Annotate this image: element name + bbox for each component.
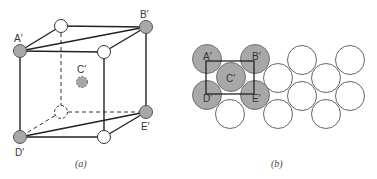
atom-open-hidden [55, 106, 68, 119]
figure: A′ B′ C′ D′ E′ (a) A′ [0, 0, 377, 179]
label-a: A′ [14, 33, 23, 44]
atom-open [98, 46, 111, 59]
atom-open [312, 64, 341, 93]
atom-open [264, 100, 293, 129]
atom-open [216, 100, 245, 129]
label-d: D′ [15, 147, 24, 158]
atom-c [77, 77, 88, 88]
panel-a-unit-cell: A′ B′ C′ D′ E′ (a) [14, 9, 153, 170]
label-b: B′ [252, 51, 261, 62]
panel-b-close-packed-plane: A′ B′ C′ D′ E′ (b) [193, 45, 365, 171]
label-d: D′ [203, 93, 212, 104]
label-e: E′ [252, 93, 261, 104]
label-e: E′ [141, 121, 150, 132]
atom-open [288, 46, 317, 75]
atom-open [336, 82, 365, 111]
label-c: C′ [226, 73, 235, 84]
atom-b [140, 21, 153, 34]
atom-open [98, 131, 111, 144]
caption-a: (a) [75, 158, 87, 170]
atom-open [55, 20, 68, 33]
label-b: B′ [140, 9, 149, 20]
label-a: A′ [203, 51, 212, 62]
atom-d [14, 131, 27, 144]
label-c: C′ [77, 64, 86, 75]
atom-open [312, 100, 341, 129]
atom-open [336, 46, 365, 75]
atom-e [140, 106, 153, 119]
atom-a [14, 45, 27, 58]
caption-b: (b) [271, 158, 283, 170]
atom-open [288, 82, 317, 111]
